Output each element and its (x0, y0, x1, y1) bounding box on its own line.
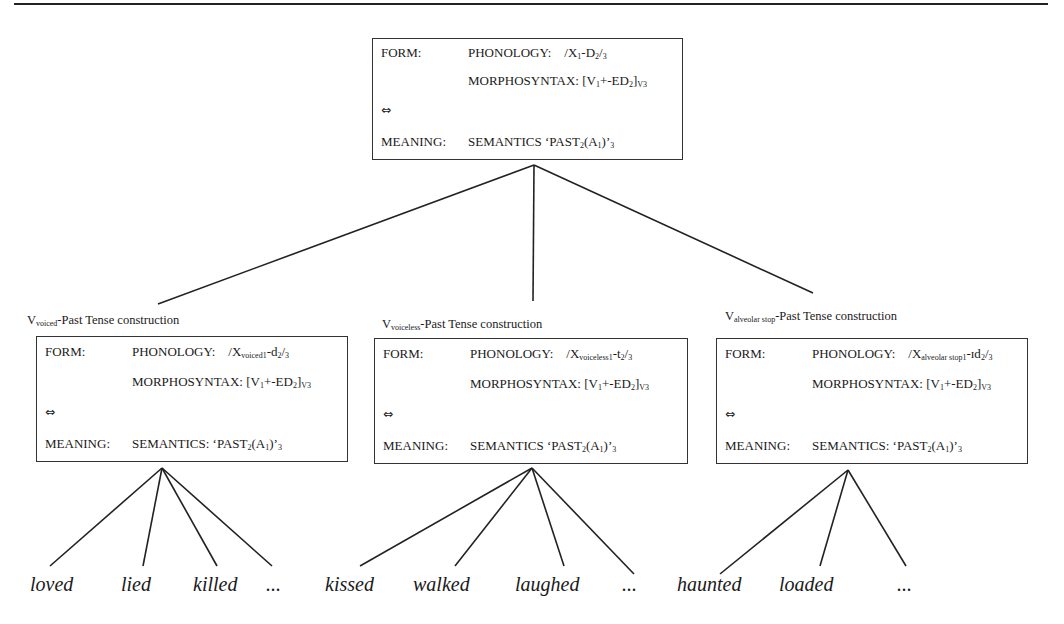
bidirectional-arrow-icon: ⇔ (381, 103, 391, 117)
phonology-value: -d (267, 344, 278, 359)
meaning-label: MEANING: (381, 134, 446, 150)
semantics-value: ‘PAST (545, 134, 580, 149)
form-label: FORM: (45, 344, 85, 360)
subscript: 3 (603, 52, 607, 61)
subscript: 3 (612, 445, 616, 454)
subscript: 3 (278, 443, 282, 452)
bidirectional-arrow-icon: ⇔ (383, 407, 393, 421)
morph-value: [V (246, 374, 260, 389)
example-word: kissed (325, 573, 374, 596)
semantics-label: SEMANTICS (470, 438, 544, 453)
semantics-label: SEMANTICS: (132, 436, 209, 451)
subscript: V3 (639, 383, 649, 392)
semantics-value: )’ (604, 438, 613, 453)
morphosyntax-row: MORPHOSYNTAX: [V1+-ED2]V3 (468, 73, 647, 88)
subscript: alveolar stop (734, 315, 775, 324)
meaning-label: MEANING: (383, 438, 448, 454)
title-text: V (27, 313, 36, 327)
phonology-label: PHONOLOGY: (470, 346, 553, 361)
subscript: alveolar stop1 (921, 353, 966, 362)
subscript: voiceless1 (579, 353, 612, 362)
subscript: 3 (958, 445, 962, 454)
subscript: 3 (628, 353, 632, 362)
semantics-row: SEMANTICS ‘PAST2(A1)’3 (468, 134, 614, 149)
phonology-value: -ɪd (966, 346, 980, 361)
phonology-value: -D (581, 45, 595, 60)
phonology-row: PHONOLOGY: /Xvoiced1-d2/3 (132, 344, 289, 359)
semantics-value: ‘PAST (893, 438, 928, 453)
example-word: loved (30, 573, 73, 596)
phonology-value: /X (228, 344, 241, 359)
semantics-row: SEMANTICS ‘PAST2(A1)’3 (470, 438, 616, 453)
meaning-label: MEANING: (45, 436, 110, 452)
semantics-value: ‘PAST (213, 436, 248, 451)
title-text: -Past Tense construction (775, 309, 897, 323)
phonology-value: /X (566, 346, 579, 361)
title-text: -Past Tense construction (57, 313, 179, 327)
morph-value: +-ED (264, 374, 293, 389)
example-word-ellipsis: ... (897, 573, 912, 596)
semantics-value: (A (931, 438, 945, 453)
title-text: -Past Tense construction (420, 317, 542, 331)
phonology-row: PHONOLOGY: /Xalveolar stop1-ɪd2/3 (812, 346, 993, 361)
bidirectional-arrow-icon: ⇔ (45, 405, 55, 419)
phonology-value: /X (908, 346, 921, 361)
phonology-value: -t (613, 346, 621, 361)
voiced-construction-title: Vvoiced-Past Tense construction (27, 313, 179, 328)
subscript: 3 (285, 351, 289, 360)
phonology-label: PHONOLOGY: (468, 45, 551, 60)
morphosyntax-row: MORPHOSYNTAX: [V1+-ED2]V3 (812, 376, 991, 391)
morphosyntax-row: MORPHOSYNTAX: [V1+-ED2]V3 (470, 376, 649, 391)
semantics-label: SEMANTICS (468, 134, 542, 149)
subscript: 3 (610, 141, 614, 150)
example-word-ellipsis: ... (266, 573, 281, 596)
morph-value: +-ED (602, 376, 631, 391)
title-text: V (725, 309, 734, 323)
phonology-label: PHONOLOGY: (812, 346, 895, 361)
example-word: loaded (779, 573, 833, 596)
semantics-value: (A (251, 436, 265, 451)
morph-value: [V (582, 73, 596, 88)
semantics-value: )’ (949, 438, 958, 453)
subscript: 3 (989, 353, 993, 362)
parent-construction-box: FORM: PHONOLOGY: /X1-D2/3 MORPHOSYNTAX: … (372, 38, 683, 160)
phonology-row: PHONOLOGY: /Xvoiceless1-t2/3 (470, 346, 632, 361)
morph-value: [V (926, 376, 940, 391)
example-word: laughed (515, 573, 579, 596)
form-label: FORM: (381, 45, 421, 61)
subscript: V3 (637, 80, 647, 89)
morphosyntax-label: MORPHOSYNTAX: (468, 73, 579, 88)
phonology-value: /X (564, 45, 577, 60)
example-word: lied (121, 573, 151, 596)
phonology-row: PHONOLOGY: /X1-D2/3 (468, 45, 607, 60)
phonology-label: PHONOLOGY: (132, 344, 215, 359)
morphosyntax-label: MORPHOSYNTAX: (812, 376, 923, 391)
semantics-value: (A (586, 438, 600, 453)
voiceless-construction-box: FORM: PHONOLOGY: /Xvoiceless1-t2/3 MORPH… (374, 338, 688, 464)
subscript: V3 (981, 383, 991, 392)
morph-value: [V (584, 376, 598, 391)
bidirectional-arrow-icon: ⇔ (725, 407, 735, 421)
example-word: killed (193, 573, 237, 596)
voiceless-construction-title: Vvoiceless-Past Tense construction (382, 317, 542, 332)
alveolar-stop-construction-title: Valveolar stop-Past Tense construction (725, 309, 897, 324)
morph-value: +-ED (600, 73, 629, 88)
form-label: FORM: (725, 346, 765, 362)
semantics-value: )’ (269, 436, 278, 451)
semantics-value: )’ (602, 134, 611, 149)
semantics-value: (A (584, 134, 598, 149)
semantics-value: ‘PAST (547, 438, 582, 453)
morphosyntax-row: MORPHOSYNTAX: [V1+-ED2]V3 (132, 374, 311, 389)
example-word-ellipsis: ... (622, 573, 637, 596)
semantics-row: SEMANTICS: ‘PAST2(A1)’3 (812, 438, 962, 453)
morphosyntax-label: MORPHOSYNTAX: (132, 374, 243, 389)
semantics-label: SEMANTICS: (812, 438, 889, 453)
title-text: V (382, 317, 391, 331)
voiced-construction-box: FORM: PHONOLOGY: /Xvoiced1-d2/3 MORPHOSY… (36, 336, 348, 462)
subscript: voiced (36, 319, 57, 328)
meaning-label: MEANING: (725, 438, 790, 454)
morph-value: +-ED (944, 376, 973, 391)
example-word: haunted (677, 573, 741, 596)
subscript: V3 (301, 381, 311, 390)
alveolar-stop-construction-box: FORM: PHONOLOGY: /Xalveolar stop1-ɪd2/3 … (716, 338, 1028, 464)
